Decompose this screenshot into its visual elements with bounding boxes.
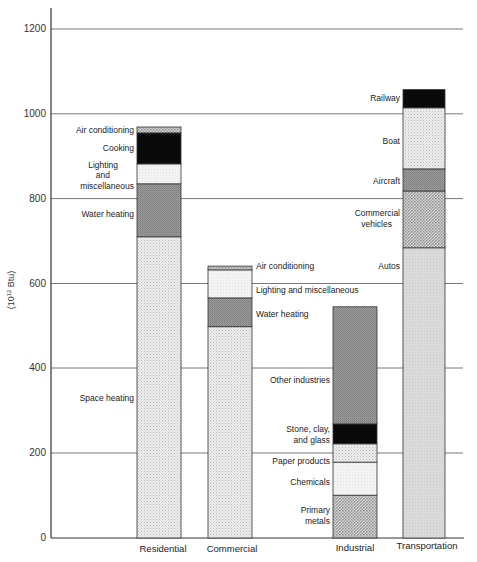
category-industrial: Industrial xyxy=(336,542,375,553)
label-lighting-misc: Lighting and miscellaneous xyxy=(256,285,359,295)
label-railway: Railway xyxy=(370,93,401,103)
segment-autos xyxy=(403,248,445,538)
y-axis-label: (1012 Btu) xyxy=(6,271,16,310)
category-residential: Residential xyxy=(140,543,187,554)
y-tick: 400 xyxy=(29,362,46,373)
label-stone-1: Stone, clay, xyxy=(286,424,330,434)
segment-air-conditioning xyxy=(137,127,181,133)
label-commercial-2: vehicles xyxy=(361,219,392,229)
label-water-heating: Water heating xyxy=(81,209,134,219)
y-tick: 0 xyxy=(40,532,46,543)
label-boat: Boat xyxy=(383,136,401,146)
label-air-conditioning: Air conditioning xyxy=(76,125,134,135)
residential-labels: Air conditioning Cooking Lighting and mi… xyxy=(76,125,134,403)
y-tick: 1200 xyxy=(24,23,47,34)
bar-transportation xyxy=(403,90,445,538)
label-chemicals: Chemicals xyxy=(290,477,330,487)
y-tick: 600 xyxy=(29,278,46,289)
stacked-bar-chart: 0 200 400 600 800 1000 1200 (1012 Btu) A… xyxy=(0,0,477,562)
label-metals-2: metals xyxy=(305,516,330,526)
segment-cooking xyxy=(137,133,181,164)
segment-commercial-vehicles xyxy=(403,191,445,248)
segment-boat xyxy=(403,108,445,169)
category-commercial: Commercial xyxy=(207,543,258,554)
segment-lighting-misc xyxy=(137,164,181,184)
category-labels: Residential Commercial Industrial Transp… xyxy=(140,540,458,554)
label-aircraft: Aircraft xyxy=(373,176,401,186)
y-tick: 200 xyxy=(29,447,46,458)
label-air-conditioning: Air conditioning xyxy=(256,261,314,271)
y-tick: 1000 xyxy=(24,108,47,119)
segment-chemicals xyxy=(333,462,377,495)
segment-water-heating xyxy=(137,184,181,237)
bar-industrial xyxy=(333,307,377,538)
transportation-labels: Railway Boat Aircraft Commercial vehicle… xyxy=(355,93,401,271)
label-paper-products: Paper products xyxy=(272,456,330,466)
segment-primary-metals xyxy=(333,495,377,538)
label-stone-2: and glass xyxy=(294,435,330,445)
label-lighting-2: and xyxy=(96,170,110,180)
segment-air-conditioning xyxy=(208,266,252,270)
label-autos: Autos xyxy=(378,261,400,271)
segment-aircraft xyxy=(403,169,445,191)
bar-residential xyxy=(137,127,181,538)
y-tick-labels: 0 200 400 600 800 1000 1200 xyxy=(24,23,47,543)
segment-lighting-misc xyxy=(208,270,252,298)
label-other-industries: Other industries xyxy=(270,375,330,385)
segment-other-industries xyxy=(333,307,377,424)
bar-commercial xyxy=(208,266,252,538)
label-metals-1: Primary xyxy=(301,505,331,515)
label-commercial-1: Commercial xyxy=(355,208,400,218)
gridlines xyxy=(51,29,463,453)
segment-railway xyxy=(403,90,445,108)
segment-space-heating xyxy=(208,327,252,538)
label-cooking: Cooking xyxy=(103,143,134,153)
segment-paper-products xyxy=(333,444,377,462)
label-lighting-1: Lighting xyxy=(88,160,118,170)
label-water-heating: Water heating xyxy=(256,309,309,319)
segment-water-heating xyxy=(208,298,252,327)
category-transportation: Transportation xyxy=(397,540,458,551)
segment-space-heating xyxy=(137,237,181,538)
y-tick: 800 xyxy=(29,193,46,204)
label-space-heating: Space heating xyxy=(80,393,135,403)
label-lighting-3: miscellaneous xyxy=(80,181,134,191)
industrial-labels: Other industries Stone, clay, and glass … xyxy=(270,375,331,526)
segment-stone-clay-glass xyxy=(333,424,377,444)
